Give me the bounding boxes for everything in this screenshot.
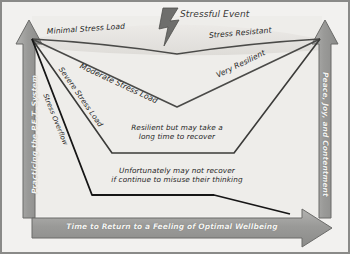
annotation-may-not-recover: Unfortunately may not recover if continu… bbox=[102, 167, 252, 184]
diagram-canvas: Practicing the P.E.T. System Peace, Joy,… bbox=[0, 0, 350, 254]
stressful-event-label: Stressful Event bbox=[180, 9, 249, 20]
y-axis-right-label: Peace, Joy, and Contentment bbox=[321, 64, 330, 204]
annotation-resilient-recovery: Resilient but may take a long time to re… bbox=[122, 124, 232, 141]
x-axis-label: Time to Return to a Feeling of Optimal W… bbox=[42, 223, 302, 232]
annotation-resilient-line2: long time to recover bbox=[122, 133, 232, 142]
y-axis-left-label: Practicing the P.E.T. System bbox=[31, 64, 40, 204]
annotation-not-recover-line2: if continue to misuse their thinking bbox=[102, 176, 252, 185]
